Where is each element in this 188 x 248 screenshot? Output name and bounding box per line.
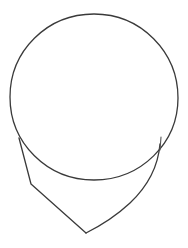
jaw-left-line [19, 138, 86, 233]
cranium-circle [10, 14, 178, 180]
sketch-canvas: Pencil sketch of a head construction: cr… [0, 0, 188, 248]
jaw-right-line [86, 144, 160, 233]
head-sketch-svg [0, 0, 188, 248]
